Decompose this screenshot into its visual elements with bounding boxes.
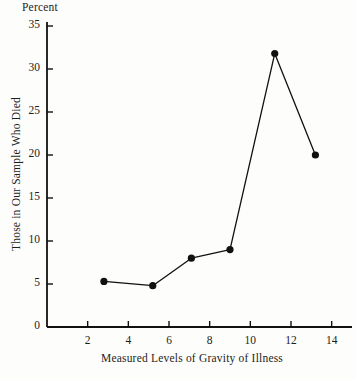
x-tick-label: 10	[238, 334, 262, 346]
data-point-marker	[188, 255, 195, 262]
y-tick-label: 25	[14, 104, 40, 116]
figure-chart: Percent Those in Our Sample Who Died Mea…	[0, 0, 357, 380]
x-tick-label: 4	[116, 334, 140, 346]
data-point-marker	[271, 50, 278, 57]
y-tick-label: 10	[14, 233, 40, 245]
data-point-marker	[149, 282, 156, 289]
y-tick-label: 20	[14, 147, 40, 159]
y-tick-label: 30	[14, 61, 40, 73]
plot-area	[0, 0, 357, 380]
x-tick-label: 14	[320, 334, 344, 346]
data-line-series	[104, 54, 315, 286]
x-tick-label: 2	[76, 334, 100, 346]
data-point-marker	[100, 278, 107, 285]
y-tick-label: 0	[14, 319, 40, 331]
y-tick-label: 5	[14, 276, 40, 288]
y-tick-marks	[47, 26, 53, 327]
data-point-marker	[226, 246, 233, 253]
y-tick-label: 15	[14, 190, 40, 202]
data-point-marker	[312, 151, 319, 158]
y-tick-label: 35	[14, 18, 40, 30]
x-tick-label: 8	[198, 334, 222, 346]
data-point-markers	[100, 50, 319, 289]
axes-group	[47, 22, 352, 327]
x-tick-label: 6	[157, 334, 181, 346]
x-tick-label: 12	[279, 334, 303, 346]
